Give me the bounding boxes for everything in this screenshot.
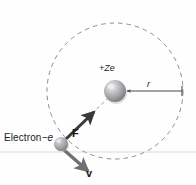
diagram-canvas (0, 0, 196, 185)
electron-label-text: Electron (4, 132, 42, 143)
force-vector-arrow (66, 112, 94, 139)
nucleus-sphere (104, 80, 126, 102)
nucleus-charge-label: +Ze (99, 64, 115, 73)
electron-sphere (54, 137, 68, 151)
electron-specular-highlight (56, 139, 60, 142)
nucleus-specular-highlight (108, 84, 115, 89)
velocity-vector-label: v (86, 168, 92, 179)
bohr-atom-diagram: Electron−e +Ze F v r (0, 0, 196, 185)
force-vector-label: F (72, 128, 79, 139)
velocity-vector-arrow (64, 150, 88, 171)
electron-label: Electron−e (4, 133, 53, 143)
radius-label: r (147, 80, 150, 89)
electron-charge-text: −e (42, 132, 54, 143)
